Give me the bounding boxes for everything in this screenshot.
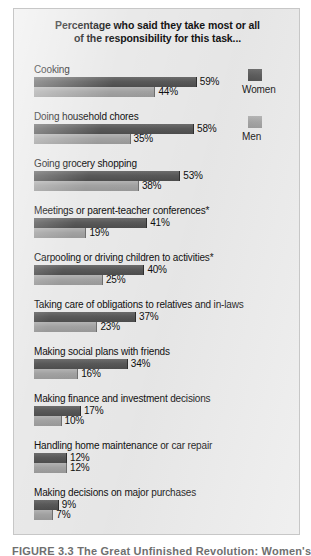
chart-row-label: Doing household chores (34, 111, 139, 122)
chart-bar-value-men: 12% (67, 462, 89, 473)
chart-bar-men (34, 228, 86, 238)
chart-row-label: Cooking (34, 64, 70, 75)
chart-bar-women (34, 312, 136, 322)
figure-caption: FIGURE 3.3 The Great Unfinished Revoluti… (12, 545, 311, 556)
chart-bar-value-men: 25% (103, 274, 125, 285)
chart-row-label: Taking care of obligations to relatives … (34, 299, 244, 310)
legend-swatch-women-icon (248, 69, 262, 81)
chart-bar-value-men: 44% (155, 86, 177, 97)
chart-bar-value-men: 19% (86, 227, 108, 238)
chart-bar-men (34, 87, 155, 97)
chart-row-label: Handling home maintenance or car repair (34, 440, 212, 451)
chart-bar-value-women: 40% (144, 264, 166, 275)
chart-bar-men (34, 181, 139, 191)
chart-bar-men (34, 275, 103, 285)
chart-bar-women (34, 265, 144, 275)
chart-row-label: Making decisions on major purchases (34, 487, 196, 498)
chart-bar-men (34, 134, 131, 144)
chart-bar-men (34, 322, 97, 332)
chart-bar-women (34, 453, 67, 463)
chart-bar-men (34, 510, 53, 520)
legend-label-women: Women (242, 84, 276, 95)
chart-panel: Percentage who said they take most or al… (13, 8, 300, 535)
chart-row-label: Meetings or parent-teacher conferences* (34, 205, 209, 216)
chart-bar-men (34, 369, 78, 379)
chart-row-label: Making finance and investment decisions (34, 393, 210, 404)
chart-bar-men (34, 416, 62, 426)
chart-bar-value-men: 23% (97, 321, 119, 332)
chart-bar-value-women: 59% (197, 76, 219, 87)
chart-row-label: Making social plans with friends (34, 346, 170, 357)
chart-bar-value-women: 41% (147, 217, 169, 228)
chart-bar-value-women: 53% (180, 170, 202, 181)
chart-bar-value-men: 7% (53, 509, 70, 520)
chart-bar-value-women: 58% (194, 123, 216, 134)
chart-bar-value-men: 10% (62, 415, 84, 426)
chart-bar-value-men: 16% (78, 368, 100, 379)
chart-bar-value-women: 34% (128, 358, 150, 369)
chart-row-label: Going grocery shopping (34, 158, 137, 169)
chart-bar-value-women: 17% (81, 405, 103, 416)
chart-bar-women (34, 124, 194, 134)
chart-bar-men (34, 463, 67, 473)
chart-bar-value-men: 35% (131, 133, 153, 144)
chart-bar-value-men: 38% (139, 180, 161, 191)
chart-row-label: Carpooling or driving children to activi… (34, 252, 213, 263)
legend-swatch-men-icon (248, 116, 262, 128)
chart-bar-value-women: 37% (136, 311, 158, 322)
legend-label-men: Men (242, 131, 261, 142)
